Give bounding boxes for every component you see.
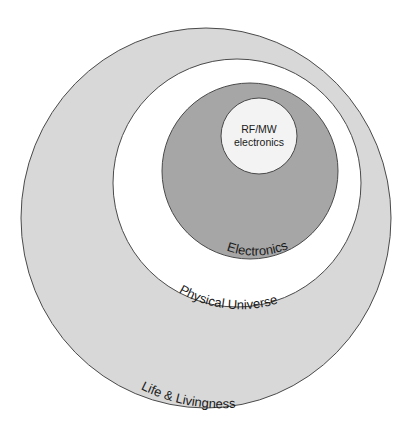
rf-mw-label-line2: electronics	[234, 136, 284, 148]
nested-circles-diagram: RF/MW electronics Electronics Physical U…	[0, 0, 407, 428]
rf-mw-label-line1: RF/MW	[241, 123, 277, 135]
